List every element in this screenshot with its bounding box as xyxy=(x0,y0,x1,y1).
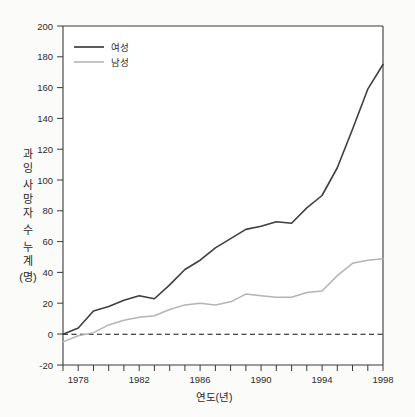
y-tick-label: 60 xyxy=(42,236,53,247)
y-tick-label: 80 xyxy=(42,205,53,216)
x-tick-label: 1982 xyxy=(129,374,150,385)
y-tick-label: 140 xyxy=(37,113,53,124)
y-axis-title-char: (명) xyxy=(19,271,36,283)
y-axis-title: 과 잉 사 망 자 수 누 계 (명) xyxy=(19,148,36,283)
x-tick-label: 1990 xyxy=(251,374,272,385)
y-tick-label: 180 xyxy=(37,51,53,62)
legend-label-male: 남성 xyxy=(111,57,129,68)
plot-area-background xyxy=(63,26,383,365)
y-tick-label: 160 xyxy=(37,82,53,93)
y-axis-title-char: 사 xyxy=(23,179,33,191)
x-tick-group xyxy=(63,365,383,371)
x-tick-label: 1998 xyxy=(372,374,393,385)
y-axis-title-char: 과 xyxy=(23,148,33,160)
line-chart-canvas: 200 180 160 140 120 100 80 60 40 20 0 -2… xyxy=(0,0,415,417)
chart-figure: 200 180 160 140 120 100 80 60 40 20 0 -2… xyxy=(0,0,415,417)
y-tick-label: 100 xyxy=(37,175,53,186)
y-axis-title-char: 잉 xyxy=(23,162,33,174)
x-axis-title: 연도(년) xyxy=(196,391,233,403)
y-axis-title-char: 계 xyxy=(23,255,33,267)
y-axis-title-char: 누 xyxy=(23,241,33,253)
y-tick-labels: 200 180 160 140 120 100 80 60 40 20 0 -2… xyxy=(37,21,53,371)
y-axis-title-char: 망 xyxy=(23,193,33,205)
y-tick-label: 40 xyxy=(42,267,53,278)
y-tick-label: 20 xyxy=(42,298,53,309)
y-tick-label: 200 xyxy=(37,21,53,32)
y-tick-group xyxy=(57,26,63,365)
x-tick-label: 1978 xyxy=(68,374,89,385)
y-tick-label: 0 xyxy=(48,329,53,340)
y-axis-title-char: 자 xyxy=(23,207,33,219)
y-tick-label: -20 xyxy=(39,360,53,371)
y-tick-label: 120 xyxy=(37,144,53,155)
y-axis-title-char: 수 xyxy=(23,224,33,236)
legend-label-female: 여성 xyxy=(111,42,129,53)
x-tick-labels: 1978 1982 1986 1990 1994 1998 xyxy=(68,374,394,385)
x-tick-label: 1986 xyxy=(190,374,211,385)
x-tick-label: 1994 xyxy=(312,374,333,385)
